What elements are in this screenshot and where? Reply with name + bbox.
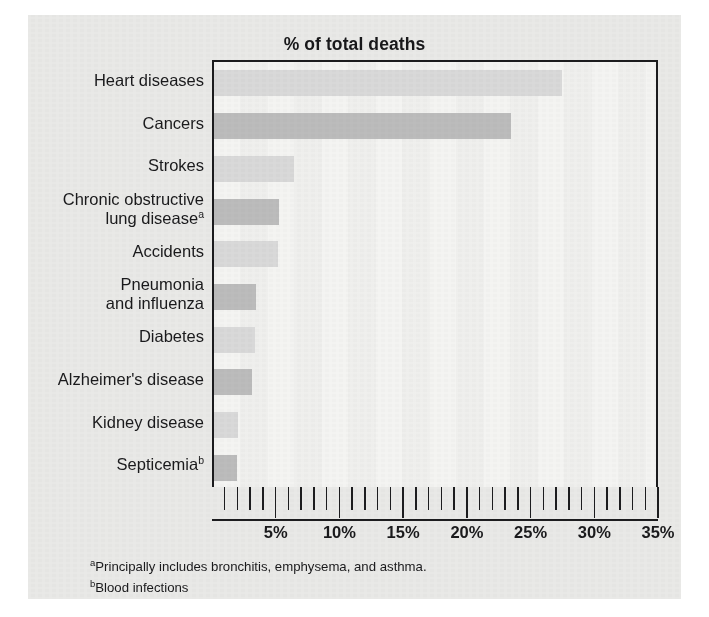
minor-tick (568, 487, 570, 510)
bar (214, 369, 252, 395)
category-label: Alzheimer's disease (28, 370, 204, 389)
minor-tick (555, 487, 557, 510)
footnote: aPrincipally includes bronchitis, emphys… (90, 556, 650, 577)
minor-tick (504, 487, 506, 510)
bar (214, 156, 294, 182)
major-tick (466, 487, 468, 518)
category-label: Heart diseases (28, 71, 204, 90)
bar (214, 113, 511, 139)
tick-label: 10% (323, 523, 356, 542)
minor-tick (645, 487, 647, 510)
minor-tick (313, 487, 315, 510)
minor-tick (326, 487, 328, 510)
footnote-marker: b (90, 578, 95, 589)
minor-tick (262, 487, 264, 510)
x-axis-ticks (212, 487, 658, 521)
minor-tick (543, 487, 545, 510)
bar (214, 241, 278, 267)
minor-tick (288, 487, 290, 510)
minor-tick (364, 487, 366, 510)
tick-label: 5% (264, 523, 288, 542)
minor-tick (249, 487, 251, 510)
minor-tick (619, 487, 621, 510)
category-label: Accidents (28, 242, 204, 261)
footnote-marker: a (198, 207, 204, 219)
chart-title: % of total deaths (28, 34, 681, 55)
category-label: Kidney disease (28, 413, 204, 432)
footnotes: aPrincipally includes bronchitis, emphys… (90, 556, 650, 598)
minor-tick (517, 487, 519, 510)
minor-tick (632, 487, 634, 510)
minor-tick (377, 487, 379, 510)
footnote: bBlood infections (90, 577, 650, 598)
figure-panel: % of total deaths Heart diseasesCancersS… (28, 15, 681, 599)
tick-label: 30% (578, 523, 611, 542)
minor-tick (237, 487, 239, 510)
minor-tick (224, 487, 226, 510)
x-axis-tick-labels: 5%10%15%20%25%30%35% (212, 523, 658, 549)
tick-label: 20% (450, 523, 483, 542)
category-label: Chronic obstructivelung diseasea (28, 190, 204, 228)
minor-tick (428, 487, 430, 510)
minor-tick (581, 487, 583, 510)
major-tick (594, 487, 596, 518)
tick-label: 15% (387, 523, 420, 542)
tick-label: 25% (514, 523, 547, 542)
minor-tick (351, 487, 353, 510)
major-tick (402, 487, 404, 518)
major-tick (530, 487, 532, 518)
bar (214, 70, 562, 96)
minor-tick (492, 487, 494, 510)
tick-label: 35% (641, 523, 674, 542)
bar (214, 412, 238, 438)
minor-tick (415, 487, 417, 510)
major-tick (275, 487, 277, 518)
bar (214, 199, 279, 225)
category-label: Strokes (28, 156, 204, 175)
minor-tick (390, 487, 392, 510)
bar (214, 327, 255, 353)
bar (214, 455, 237, 481)
footnote-marker: a (90, 557, 95, 568)
category-label: Septicemiab (28, 455, 204, 474)
category-label: Cancers (28, 114, 204, 133)
category-label: Pneumoniaand influenza (28, 275, 204, 313)
footnote-marker: b (198, 454, 204, 466)
minor-tick (606, 487, 608, 510)
minor-tick (300, 487, 302, 510)
minor-tick (453, 487, 455, 510)
minor-tick (441, 487, 443, 510)
major-tick (339, 487, 341, 518)
bar (214, 284, 256, 310)
category-label: Diabetes (28, 327, 204, 346)
plot-area (212, 60, 658, 487)
major-tick (657, 487, 659, 518)
x-axis-baseline (212, 519, 658, 521)
minor-tick (479, 487, 481, 510)
